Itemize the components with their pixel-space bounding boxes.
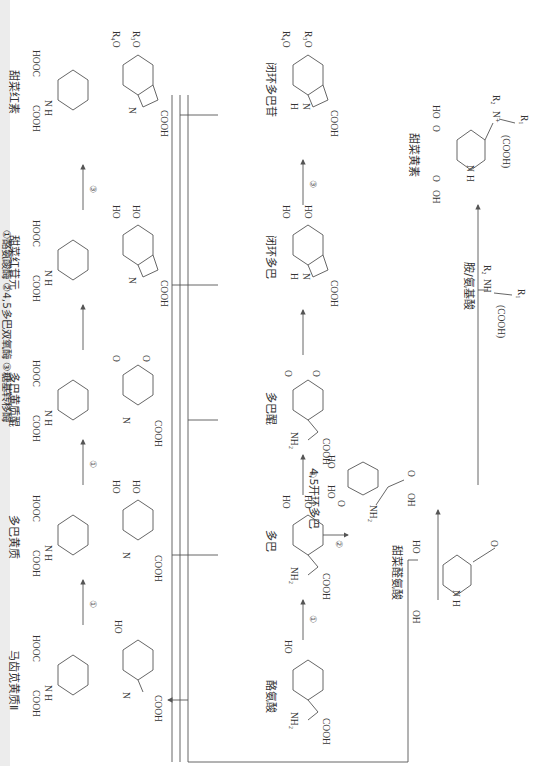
svg-text:COOH: COOH (31, 690, 41, 717)
reaction-arrows: ① ① ③ ② ① ① ③ (83, 95, 488, 762)
svg-text:H: H (465, 175, 475, 182)
svg-text:R₁: R₁ (519, 115, 529, 125)
svg-text:NH₂: NH₂ (289, 432, 299, 449)
svg-text:HO: HO (411, 540, 421, 554)
svg-text:OH: OH (431, 190, 441, 204)
svg-text:N H: N H (43, 270, 53, 286)
svg-text:COOH: COOH (329, 280, 339, 307)
svg-text:HO: HO (111, 205, 121, 219)
svg-text:O: O (336, 500, 346, 507)
label-betanin: 甜菜红素 (7, 70, 23, 114)
svg-text:NH₂: NH₂ (289, 712, 299, 729)
svg-text:COOH: COOH (31, 105, 41, 132)
svg-text:N: N (121, 552, 131, 559)
svg-text:N: N (301, 273, 311, 280)
cyclo-dopa-structure: HO HO N H COOH (281, 205, 339, 307)
svg-text:HO: HO (431, 105, 441, 119)
svg-text:HOOC: HOOC (31, 360, 41, 387)
svg-text:R₁: R₁ (516, 289, 526, 299)
svg-text:COOH: COOH (153, 555, 163, 582)
svg-text:O: O (489, 540, 499, 547)
svg-text:N H: N H (43, 410, 53, 426)
svg-text:NH₂: NH₂ (368, 505, 378, 522)
svg-text:HOOC: HOOC (31, 495, 41, 522)
svg-text:N: N (121, 417, 131, 424)
svg-text:HOOC: HOOC (31, 50, 41, 77)
svg-text:OH: OH (411, 610, 421, 624)
svg-text:R₂: R₂ (482, 265, 492, 275)
svg-text:HO: HO (281, 495, 291, 509)
cyclo-dopa-glucoside-structure: R₃O R₄O N H COOH (281, 31, 339, 137)
svg-text:COOH: COOH (159, 110, 169, 137)
betalamic-acid-structure: O N H HO OH (411, 540, 499, 624)
label-portulacaxanthin-ii: 马齿苋黄质Ⅱ (7, 650, 23, 710)
betanin-structure: R₃O R₄O COOH N HOOC COOH N H (31, 31, 169, 137)
label-cyclo-dopa-glucoside: 闭环多巴苷 (264, 62, 280, 117)
svg-text:R₄O: R₄O (111, 31, 121, 48)
svg-text:OH: OH (406, 493, 416, 507)
svg-text:O: O (406, 470, 416, 477)
dopaxanthin-quinone-structure: O O COOH N HOOC COOH N H (31, 355, 163, 447)
label-dopaquinone: 多巴醌 (264, 392, 280, 425)
svg-text:R₃O: R₃O (303, 31, 313, 48)
svg-text:N: N (465, 165, 475, 172)
svg-text:HO: HO (113, 620, 123, 634)
svg-text:O: O (141, 355, 151, 362)
svg-text:COOH: COOH (321, 573, 331, 600)
svg-text:COOH: COOH (321, 718, 331, 745)
svg-text:N H: N H (43, 545, 53, 561)
svg-text:COOH: COOH (31, 550, 41, 577)
svg-text:COOH: COOH (153, 695, 163, 722)
label-amine-amino-acid: 胺/氨基酸 (462, 262, 478, 310)
svg-text:O: O (431, 125, 441, 132)
svg-text:R₄O: R₄O (281, 31, 291, 48)
label-seco-dopa: 4,5开环多巴 (307, 468, 323, 530)
svg-text:O: O (283, 370, 293, 377)
svg-text:HO: HO (281, 205, 291, 219)
betanidin-structure: HO HO COOH N HOOC COOH N H (31, 205, 169, 307)
svg-text:H: H (289, 273, 299, 280)
svg-text:N H: N H (43, 685, 53, 701)
pathway-diagram: R₁ R₂ N⁺ (COOH) N H HO OH O O R₁ R₂ NH (… (0, 0, 548, 766)
amine-structure: R₁ R₂ NH (COOH) (482, 265, 526, 338)
svg-text:(COOH): (COOH) (495, 305, 506, 338)
svg-text:N⁺: N⁺ (491, 111, 501, 123)
svg-text:N H: N H (43, 100, 53, 116)
svg-text:R₃O: R₃O (131, 31, 141, 48)
svg-text:O: O (431, 175, 441, 182)
svg-text:N: N (451, 590, 461, 597)
enzyme-1-mark: ① (88, 600, 98, 608)
svg-text:O: O (111, 355, 121, 362)
svg-text:HO: HO (131, 480, 141, 494)
enzyme-1-mark: ① (308, 615, 318, 623)
dopaquinone-structure: O O COOH NH₂ (283, 370, 331, 465)
svg-text:N: N (301, 103, 311, 110)
portulacaxanthin-structure: HO COOH N HOOC COOH N H (31, 620, 163, 722)
enzyme-3-mark: ③ (88, 185, 98, 193)
svg-text:O: O (311, 370, 321, 377)
label-tyrosine: 酪氨酸 (264, 680, 280, 713)
svg-text:COOH: COOH (321, 438, 331, 465)
svg-text:N: N (127, 107, 137, 114)
label-dopaxanthin: 多巴黄质 (7, 515, 23, 559)
svg-text:HO: HO (131, 205, 141, 219)
svg-text:NH: NH (482, 279, 492, 293)
enzyme-legend-caption: ①酪氨酸酶 ②4,5多巴双氧酶 ③糖基转移酶 (0, 230, 15, 422)
label-betalamic-acid: 甜菜醛氨酸 (390, 545, 406, 600)
svg-text:COOH: COOH (31, 415, 41, 442)
svg-text:R₂: R₂ (491, 95, 501, 105)
svg-text:H: H (289, 103, 299, 110)
seco-dopa-structure: O OH NH₂ HO HO O (326, 455, 416, 522)
svg-text:HO: HO (111, 480, 121, 494)
label-betaxanthin: 甜菜黄素 (407, 133, 423, 177)
svg-text:COOH: COOH (159, 280, 169, 307)
enzyme-3-mark: ③ (308, 180, 318, 188)
svg-text:HO: HO (283, 640, 293, 654)
enzyme-1-mark: ① (88, 460, 98, 468)
tyrosine-structure: HO COOH NH₂ (283, 640, 331, 745)
label-dopa: 多巴 (264, 530, 280, 552)
svg-text:N: N (127, 277, 137, 284)
svg-text:HOOC: HOOC (31, 220, 41, 247)
svg-text:COOH: COOH (329, 110, 339, 137)
svg-text:HOOC: HOOC (31, 635, 41, 662)
